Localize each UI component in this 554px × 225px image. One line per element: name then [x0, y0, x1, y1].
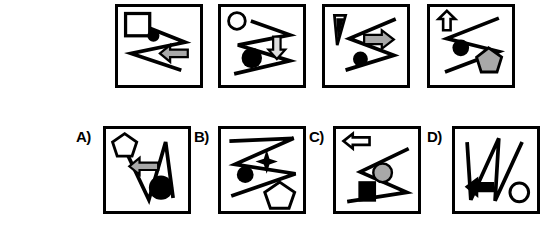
option-panel-b[interactable]	[218, 126, 306, 214]
stimulus-panel-2[interactable]	[218, 4, 306, 88]
gray-left-arrow	[129, 158, 158, 175]
option-panel-d[interactable]	[452, 126, 540, 214]
option-panel-a[interactable]	[103, 126, 191, 214]
white-pentagon	[265, 182, 295, 208]
puzzle-stage: A) B) C)	[0, 0, 554, 225]
option-label-b: B)	[194, 129, 209, 144]
white-up-arrow	[439, 11, 456, 31]
black-circle	[237, 166, 254, 183]
option-label-d: D)	[427, 129, 442, 144]
black-circle	[147, 30, 159, 42]
black-triangle	[334, 15, 345, 45]
stimulus-panel-4[interactable]	[427, 4, 515, 88]
gray-circle	[373, 163, 392, 182]
black-circle	[452, 40, 469, 57]
black-circle	[242, 48, 262, 68]
stimulus-panel-1[interactable]	[115, 4, 203, 88]
black-circle	[149, 176, 173, 200]
white-pentagon	[113, 134, 137, 156]
black-square	[358, 181, 376, 202]
white-left-arrow	[343, 134, 369, 149]
option-label-c: C)	[309, 129, 324, 144]
black-circle	[353, 52, 368, 67]
stimulus-panel-3[interactable]	[322, 4, 410, 88]
white-square	[126, 14, 150, 36]
option-panel-c[interactable]	[333, 126, 421, 214]
white-circle	[510, 183, 529, 202]
option-label-a: A)	[76, 129, 91, 144]
white-circle	[229, 13, 246, 30]
